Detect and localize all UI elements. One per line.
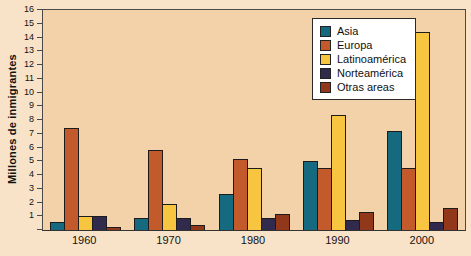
legend-item: Norteamérica [320,66,406,80]
y-tick-label: 3 [29,183,34,192]
legend-item: Otras areas [320,80,406,94]
legend-label: Latinoamérica [337,52,406,66]
legend-item: Asia [320,24,406,38]
y-tick-label: 15 [24,18,34,27]
legend-swatch-icon [320,26,331,37]
x-axis-label: 1960 [72,234,96,246]
bar-1970-otras-areas [190,225,205,231]
bar-2000-europa [401,168,416,230]
bar-2000-otras-areas [443,208,458,230]
x-axis-label: 1990 [325,234,349,246]
plot-area: AsiaEuropaLatinoaméricaNorteaméricaOtras… [42,9,466,231]
legend-swatch-icon [320,40,331,51]
y-tick-label: 10 [24,87,34,96]
y-tick-label: 4 [29,170,34,179]
bar-1990-asia [303,161,318,230]
x-axis-labels: 19601970198019902000 [42,234,464,250]
legend-label: Europa [337,38,372,52]
y-tick-label: 2 [29,197,34,206]
y-tick-label: 13 [24,46,34,55]
bar-1970-latinoamérica [162,204,177,230]
bar-1970-europa [148,150,163,230]
legend: AsiaEuropaLatinoaméricaNorteaméricaOtras… [312,18,416,100]
bar-group-1980 [212,10,296,230]
bar-1970-asia [134,218,149,230]
bar-1990-otras-areas [359,212,374,230]
bar-2000-asia [387,131,402,230]
legend-label: Norteamérica [337,66,403,80]
y-tick-label: 6 [29,142,34,151]
y-axis-tick-labels: 12345678910111213141516 [0,9,37,229]
immigration-bar-chart: Millones de inmigrantes 1234567891011121… [0,0,471,256]
bar-1960-norteamérica [92,216,107,230]
bar-1990-europa [317,168,332,230]
legend-swatch-icon [320,82,331,93]
bar-1980-europa [233,159,248,231]
bar-1980-latinoamérica [247,168,262,230]
legend-item: Latinoamérica [320,52,406,66]
y-tick-label: 7 [29,128,34,137]
bar-1980-norteamérica [261,218,276,230]
bar-1980-asia [219,194,234,230]
bar-1960-asia [50,222,65,230]
legend-item: Europa [320,38,406,52]
y-tick-label: 5 [29,156,34,165]
legend-swatch-icon [320,54,331,65]
legend-swatch-icon [320,68,331,79]
y-tick-label: 11 [25,73,34,82]
bar-1960-europa [64,128,79,230]
x-axis-label: 1980 [241,234,265,246]
legend-label: Asia [337,24,358,38]
bar-1960-latinoamérica [78,216,93,230]
bar-group-1970 [127,10,211,230]
bar-1970-norteamérica [176,218,191,230]
bar-2000-norteamérica [429,222,444,230]
y-tick-label: 1 [29,211,34,220]
bar-1990-latinoamérica [331,115,346,231]
y-tick-label: 8 [29,115,34,124]
bar-1990-norteamérica [345,220,360,230]
x-axis-label: 2000 [410,234,434,246]
y-tick-label: 12 [24,60,34,69]
bar-1980-otras-areas [275,214,290,231]
bar-2000-latinoamérica [415,32,430,230]
y-tick-label: 9 [29,101,34,110]
bar-1960-otras-areas [106,227,121,230]
x-axis-label: 1970 [156,234,180,246]
y-tick-label: 16 [24,5,34,14]
legend-label: Otras areas [337,80,394,94]
y-tick-label: 14 [24,32,34,41]
bar-group-1960 [43,10,127,230]
